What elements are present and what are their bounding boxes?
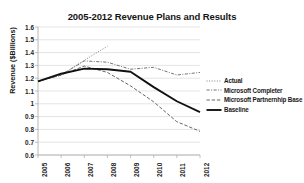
legend-item-label: Microsoft Partnernhip Base: [224, 96, 302, 103]
revenue-line-chart: 2005-2012 Revenue Plans and Results Reve…: [0, 0, 304, 183]
legend-line-swatch-icon: [206, 106, 222, 114]
legend-line-swatch-icon: [206, 86, 222, 94]
legend-item[interactable]: Microsoft Completer: [206, 86, 304, 96]
legend-item-label: Baseline: [224, 106, 249, 113]
series-line-baseline: [38, 69, 200, 113]
legend-item-label: Actual: [224, 77, 242, 84]
legend-item[interactable]: Microsoft Partnernhip Base: [206, 95, 304, 105]
series-line-actual: [38, 46, 107, 81]
legend-item-label: Microsoft Completer: [224, 87, 282, 94]
legend-line-swatch-icon: [206, 77, 222, 85]
chart-legend: ActualMicrosoft CompleterMicrosoft Partn…: [206, 76, 304, 114]
series-line-microsoft-partnernhip-base: [38, 66, 200, 131]
legend-line-swatch-icon: [206, 96, 222, 104]
legend-item[interactable]: Baseline: [206, 105, 304, 115]
legend-item[interactable]: Actual: [206, 76, 304, 86]
